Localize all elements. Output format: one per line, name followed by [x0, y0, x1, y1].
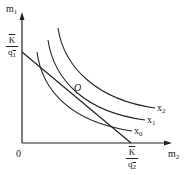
x-intercept-denominator-sub: 2	[133, 163, 137, 171]
curve-label-x0-sub: 0	[139, 130, 143, 138]
curve-label-x2-sub: 2	[162, 107, 166, 115]
y-axis-label-main: m	[6, 3, 14, 14]
x-axis-label-main: m	[168, 148, 176, 159]
y-axis-arrow-icon	[20, 12, 25, 20]
x-axis-label-sub: 2	[176, 153, 180, 161]
indifference-curve-x1	[48, 40, 145, 120]
y-intercept-denominator: q1	[6, 47, 18, 59]
tangent-point-label: O	[74, 83, 81, 93]
origin-label: 0	[16, 149, 21, 159]
y-axis-label: m1	[6, 4, 17, 16]
indifference-curve-x0	[37, 52, 132, 131]
x-intercept-denominator: q2	[126, 159, 138, 171]
y-intercept-label: K q1	[6, 36, 18, 59]
curve-label-x1-sub: 1	[152, 119, 156, 127]
diagram-canvas	[0, 0, 185, 175]
y-axis-label-sub: 1	[14, 8, 18, 16]
x-intercept-numerator: K	[126, 148, 138, 159]
y-intercept-denominator-sub: 1	[13, 51, 17, 59]
y-intercept-numerator: K	[6, 36, 18, 47]
indifference-curve-x2	[58, 28, 155, 108]
x-axis-label: m2	[168, 149, 179, 161]
curve-label-x0: x0	[134, 126, 143, 138]
x-axis-arrow-icon	[164, 141, 172, 146]
curve-label-x2: x2	[157, 103, 166, 115]
curve-label-x1: x1	[147, 115, 156, 127]
x-intercept-label: K q2	[126, 148, 138, 171]
